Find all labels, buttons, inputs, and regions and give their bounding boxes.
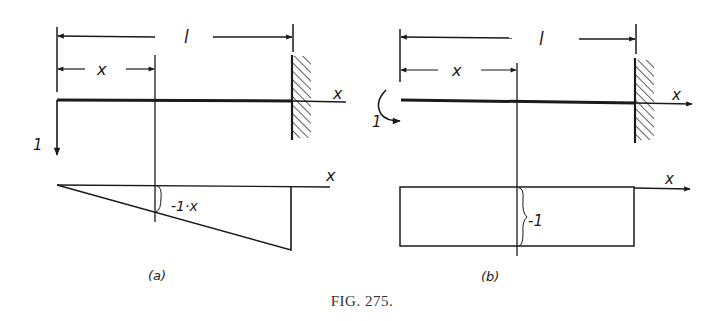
span-label-b: l <box>539 29 544 49</box>
dimension-l-a <box>57 24 293 92</box>
moment-arrow-icon-b <box>378 90 400 121</box>
load-label-a: 1 <box>33 136 43 154</box>
span-label-a: l <box>184 27 189 47</box>
diagram-value-b: -1 <box>528 212 543 230</box>
moment-diagram-b <box>400 187 690 246</box>
beam-b <box>401 100 635 103</box>
axis-label-beam-a: x <box>332 84 343 103</box>
section-label-b: x <box>451 61 462 80</box>
panel-label-a: (a) <box>148 268 166 283</box>
dimension-l-b <box>400 24 636 82</box>
beam-a <box>57 100 293 101</box>
axis-label-diagram-b: x <box>664 170 674 188</box>
load-label-b: 1 <box>372 113 382 131</box>
section-label-a: x <box>96 60 107 79</box>
panel-b: l x x 1 x -1 (b) <box>372 24 692 284</box>
fixed-wall-b <box>635 58 654 143</box>
panel-label-b: (b) <box>481 269 499 284</box>
figure-canvas: l x x 1 x -1·x (a) <box>0 0 721 321</box>
panel-a: l x x 1 x -1·x (a) <box>33 24 346 283</box>
diagram-value-a: -1·x <box>171 198 198 214</box>
moment-diagram-a <box>57 185 330 250</box>
axis-label-beam-b: x <box>671 86 681 104</box>
figure-caption: FIG. 275. <box>331 293 393 309</box>
fixed-wall-a <box>292 55 311 140</box>
axis-label-diagram-a: x <box>325 166 336 185</box>
